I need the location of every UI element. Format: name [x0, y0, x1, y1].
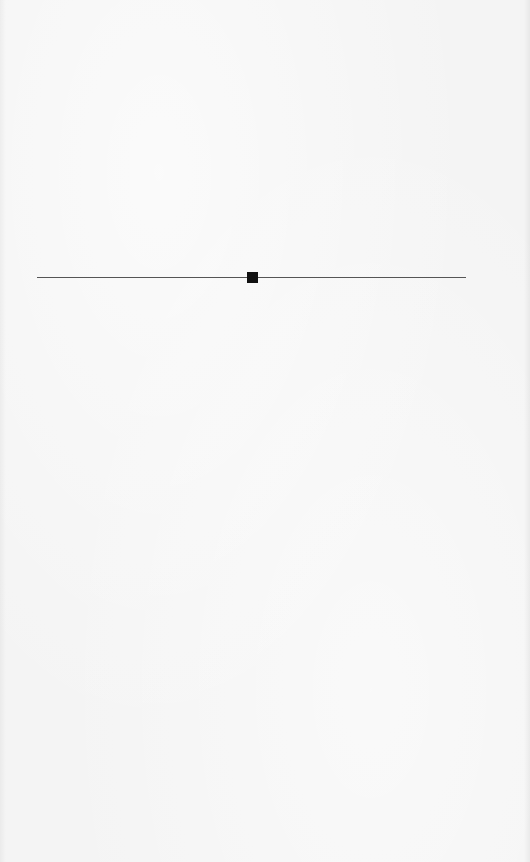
document-page [0, 0, 530, 862]
square-ornament-icon [247, 272, 258, 283]
